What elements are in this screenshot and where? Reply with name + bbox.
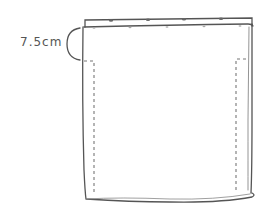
fabric-panel bbox=[83, 24, 254, 202]
stitch-lines bbox=[84, 59, 246, 192]
fabric-diagram bbox=[0, 0, 265, 213]
diagram-canvas: 7.5cm bbox=[0, 0, 265, 213]
right-stitch-line bbox=[236, 59, 246, 192]
measurement-label: 7.5cm bbox=[20, 35, 62, 50]
left-stitch-line bbox=[84, 61, 94, 192]
folded-hem bbox=[84, 18, 253, 29]
measurement-brace-icon bbox=[67, 28, 80, 60]
